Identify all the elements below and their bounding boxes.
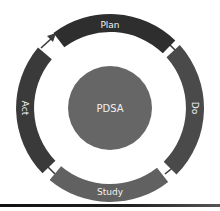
center-label: PDSA xyxy=(96,103,123,114)
segment-study-label: Study xyxy=(97,187,124,197)
segment-plan-label: Plan xyxy=(100,20,119,30)
segment-do-label: Do xyxy=(190,102,200,115)
connector-act-plan xyxy=(41,38,52,48)
bottom-border-line xyxy=(0,204,220,207)
segment-act-label: Act xyxy=(20,101,30,116)
pdsa-cycle-diagram: Plan Do Study Act PDSA xyxy=(0,0,220,211)
